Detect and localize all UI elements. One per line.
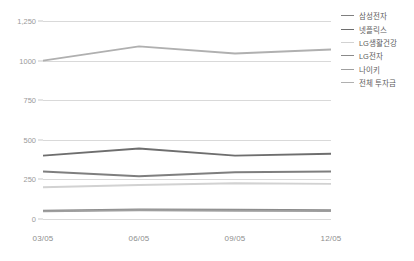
legend-item[interactable]: LG전자 (341, 49, 414, 62)
legend-color-swatch (341, 82, 354, 83)
y-tick-label: 0 (0, 215, 36, 224)
series-line (43, 183, 331, 187)
series-line (43, 171, 331, 176)
chart-legend: 삼성전자넷플릭스LG생활건강LG전자나이키전체 투자금 (341, 9, 414, 89)
legend-item-label: 전체 투자금 (359, 77, 395, 88)
legend-color-swatch (341, 69, 354, 70)
series-line (43, 210, 331, 211)
legend-color-swatch (341, 15, 354, 16)
legend-item-label: 넷플릭스 (359, 24, 387, 35)
plot-area (43, 21, 331, 219)
y-tick-label: 1,250 (0, 17, 36, 26)
y-tick-label: 750 (0, 96, 36, 105)
legend-item-label: LG생활건강 (359, 37, 396, 48)
legend-item-label: 삼성전자 (359, 10, 387, 21)
legend-item[interactable]: LG생활건강 (341, 36, 414, 49)
x-tick-label: 12/05 (320, 234, 341, 243)
legend-item[interactable]: 삼성전자 (341, 9, 414, 22)
legend-item[interactable]: 나이키 (341, 63, 414, 76)
x-tick-label: 06/05 (128, 234, 149, 243)
y-tick-label: 250 (0, 175, 36, 184)
y-tick-label: 1000 (0, 56, 36, 65)
x-tick-label: 09/05 (224, 234, 245, 243)
line-chart: 025050075010001,250 03/0506/0509/0512/05… (0, 0, 414, 261)
series-line (43, 46, 331, 60)
gridline (43, 219, 331, 220)
series-layer (43, 21, 331, 219)
series-line (43, 149, 331, 156)
legend-item-label: 나이키 (359, 64, 380, 75)
x-tick-label: 03/05 (32, 234, 53, 243)
legend-item[interactable]: 전체 투자금 (341, 76, 414, 89)
legend-color-swatch (341, 29, 354, 30)
y-tick-label: 500 (0, 135, 36, 144)
legend-color-swatch (341, 55, 354, 56)
legend-item-label: LG전자 (359, 50, 383, 61)
legend-color-swatch (341, 42, 354, 43)
legend-item[interactable]: 넷플릭스 (341, 22, 414, 35)
